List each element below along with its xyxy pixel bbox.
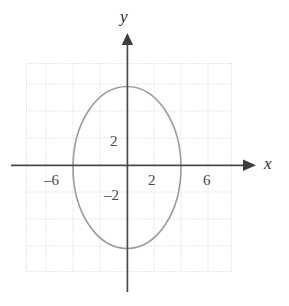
y-tick-label-neg2: –2 bbox=[104, 188, 119, 203]
y-tick-label-2: 2 bbox=[110, 134, 118, 149]
x-tick-label-6: 6 bbox=[203, 173, 211, 188]
graph-figure: –6 2 6 2 –2 y x bbox=[0, 0, 289, 306]
x-tick-label-2: 2 bbox=[148, 173, 156, 188]
y-axis bbox=[122, 33, 133, 292]
coordinate-plane-svg bbox=[0, 0, 289, 306]
x-tick-label-neg6: –6 bbox=[44, 173, 59, 188]
y-axis-name: y bbox=[120, 8, 128, 25]
grid-lines bbox=[26, 63, 232, 272]
x-axis-name: x bbox=[264, 155, 272, 172]
x-axis bbox=[11, 160, 256, 171]
